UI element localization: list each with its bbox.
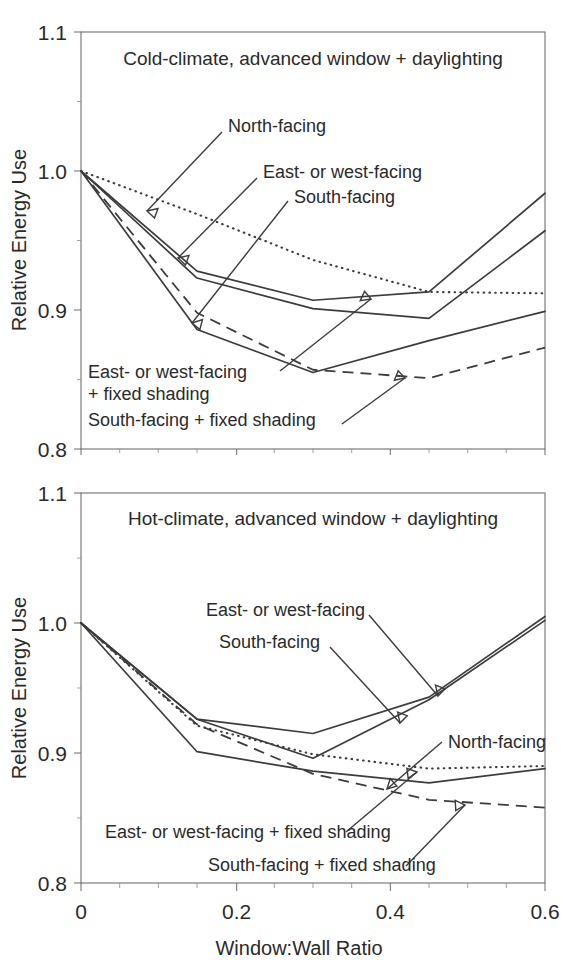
x-axis-title: Window:Wall Ratio bbox=[215, 937, 382, 959]
top-ytick-1.1: 1.1 bbox=[38, 21, 67, 44]
chart-svg: 1.1 1.0 0.9 0.8 Relative Energy Use bbox=[0, 0, 574, 976]
xtick-0.2: 0.2 bbox=[222, 900, 251, 923]
bottom-annot-east-west-facing: East- or west-facing bbox=[206, 600, 365, 620]
xtick-0: 0 bbox=[75, 900, 87, 923]
bottom-annot-south-shading: South-facing + fixed shading bbox=[208, 855, 436, 875]
bottom-panel: 1.1 1.0 0.9 0.8 Relative Energy Use bbox=[8, 482, 560, 959]
top-y-axis-ticks bbox=[74, 32, 81, 449]
top-annot-east-west-shading-line1: East- or west-facing bbox=[88, 362, 247, 382]
bottom-ytick-0.8: 0.8 bbox=[38, 872, 67, 895]
bottom-ytick-0.9: 0.9 bbox=[38, 742, 67, 765]
energy-use-figure: 1.1 1.0 0.9 0.8 Relative Energy Use bbox=[0, 0, 574, 976]
top-annot-south-facing: South-facing bbox=[294, 187, 395, 207]
top-y-axis-title: Relative Energy Use bbox=[8, 149, 30, 331]
top-panel: 1.1 1.0 0.9 0.8 Relative Energy Use bbox=[8, 21, 545, 461]
bottom-x-axis-ticks bbox=[81, 883, 545, 891]
bottom-y-axis-title: Relative Energy Use bbox=[8, 597, 30, 779]
bottom-ytick-1.1: 1.1 bbox=[38, 482, 67, 505]
bottom-ytick-1.0: 1.0 bbox=[38, 612, 67, 635]
top-annot-east-west-facing: East- or west-facing bbox=[263, 162, 422, 182]
xtick-0.4: 0.4 bbox=[376, 900, 406, 923]
bottom-annot-east-west-shading: East- or west-facing + fixed shading bbox=[105, 822, 391, 842]
top-panel-title: Cold-climate, advanced window + daylight… bbox=[123, 48, 503, 69]
bottom-panel-title: Hot-climate, advanced window + daylighti… bbox=[128, 508, 498, 529]
bottom-y-axis-ticks bbox=[74, 493, 81, 883]
xtick-0.6: 0.6 bbox=[530, 900, 559, 923]
top-ytick-0.9: 0.9 bbox=[38, 299, 67, 322]
top-x-axis-ticks bbox=[81, 449, 545, 455]
top-ytick-1.0: 1.0 bbox=[38, 160, 67, 183]
top-annot-north-facing: North-facing bbox=[228, 116, 326, 136]
top-annot-east-west-shading-line2: + fixed shading bbox=[88, 384, 210, 404]
top-ytick-0.8: 0.8 bbox=[38, 438, 67, 461]
bottom-annot-south-facing: South-facing bbox=[219, 632, 320, 652]
bottom-annot-north-facing: North-facing bbox=[448, 732, 546, 752]
top-annot-south-shading: South-facing + fixed shading bbox=[88, 410, 316, 430]
